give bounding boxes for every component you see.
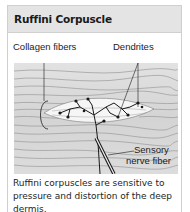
figure-top-labels: Collagen fibers Dendrites [13, 41, 176, 57]
label-sensory-nerve-fiber-line2: nerve fiber [126, 155, 171, 166]
card-title: Ruffini Corpuscle [14, 13, 112, 25]
caption: Ruffini corpuscles are sensitive to pres… [13, 177, 181, 212]
ruffini-card: Ruffini Corpuscle Collagen fibers Dendri… [7, 5, 182, 212]
ruffini-corpuscle-illustration: Sensory nerve fiber [14, 63, 178, 174]
label-collagen-fibers: Collagen fibers [13, 41, 76, 52]
label-sensory-nerve-fiber-line1: Sensory [134, 144, 169, 155]
card-header: Ruffini Corpuscle [8, 6, 181, 33]
label-dendrites: Dendrites [113, 41, 154, 52]
